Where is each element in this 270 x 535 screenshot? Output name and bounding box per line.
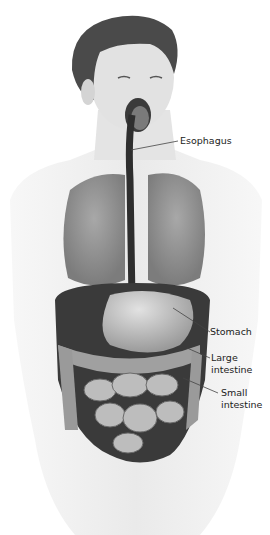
anatomy-figure: Esophagus Stomach Large intestine Small … bbox=[0, 0, 270, 535]
label-large-intestine-line2: intestine bbox=[211, 364, 252, 376]
stomach bbox=[103, 291, 194, 353]
label-small-intestine-line1: Small bbox=[221, 387, 247, 399]
label-esophagus: Esophagus bbox=[180, 135, 232, 147]
label-large-intestine-line1: Large bbox=[211, 352, 238, 364]
label-small-intestine-line2: intestine bbox=[221, 399, 262, 411]
ear bbox=[81, 79, 95, 105]
body-illustration bbox=[0, 0, 270, 535]
label-stomach: Stomach bbox=[210, 326, 252, 338]
esophagus bbox=[129, 115, 132, 300]
head bbox=[72, 16, 178, 132]
